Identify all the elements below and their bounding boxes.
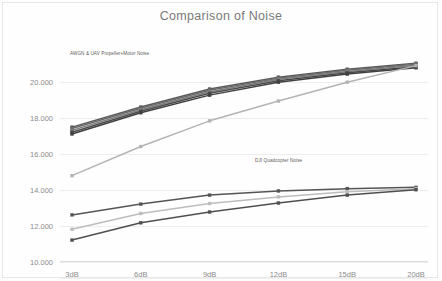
- slide-canvas: Comparison of Noise 10.00012.00014.00016…: [0, 0, 442, 281]
- y-axis-tick-label: 16.000: [30, 150, 53, 159]
- series-marker: [139, 111, 142, 114]
- series-line: [72, 189, 416, 230]
- series-marker: [414, 64, 417, 67]
- gridline: [60, 262, 428, 263]
- series-layer: [60, 57, 428, 262]
- series-marker: [277, 195, 280, 198]
- series-marker: [346, 190, 349, 193]
- y-axis-tick-label: 18.000: [30, 114, 53, 123]
- series-marker: [277, 99, 280, 102]
- series-line: [72, 65, 416, 130]
- series-marker: [414, 188, 417, 191]
- series-line: [72, 190, 416, 240]
- series-marker: [70, 238, 73, 241]
- series-marker: [139, 221, 142, 224]
- series-marker: [208, 93, 211, 96]
- y-axis-tick-label: 10.000: [30, 258, 53, 267]
- y-axis-tick-label: 12.000: [30, 222, 53, 231]
- series-marker: [70, 132, 73, 135]
- annotation-lower-cluster: DJI Quadcopter Noise: [255, 158, 302, 163]
- series-marker: [346, 80, 349, 83]
- series-line: [72, 64, 416, 128]
- chart-series: [70, 65, 417, 134]
- series-marker: [346, 72, 349, 75]
- chart-series: [70, 64, 417, 132]
- series-marker: [277, 201, 280, 204]
- y-axis-tick-label: 20.000: [30, 78, 53, 87]
- series-marker: [277, 80, 280, 83]
- page-title: Comparison of Noise: [0, 9, 442, 23]
- series-marker: [346, 193, 349, 196]
- series-marker: [208, 202, 211, 205]
- series-marker: [208, 210, 211, 213]
- series-marker: [70, 228, 73, 231]
- series-marker: [208, 193, 211, 196]
- chart-series: [70, 188, 417, 242]
- series-marker: [70, 213, 73, 216]
- series-marker: [139, 145, 142, 148]
- series-line: [72, 67, 416, 132]
- annotation-upper-cluster: AWGN & UAV Propeller+Motor Noise: [70, 51, 149, 56]
- series-marker: [277, 189, 280, 192]
- y-axis-tick-label: 14.000: [30, 186, 53, 195]
- series-marker: [70, 174, 73, 177]
- series-marker: [346, 187, 349, 190]
- series-marker: [139, 212, 142, 215]
- chart-series: [70, 66, 417, 136]
- plot-area: 10.00012.00014.00016.00018.00020.000 3dB…: [60, 57, 428, 262]
- x-axis-baseline: [60, 278, 428, 279]
- series-marker: [139, 202, 142, 205]
- series-line: [72, 66, 416, 176]
- series-marker: [208, 119, 211, 122]
- chart-series: [70, 64, 417, 177]
